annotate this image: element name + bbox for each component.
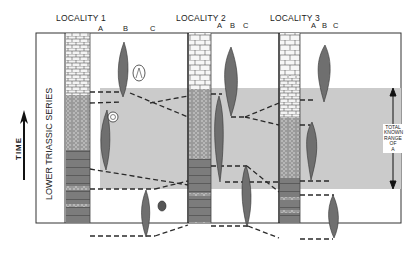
- gastropod-icon: [158, 201, 166, 211]
- range-label: TOTAL KNOWN RANGE OF A: [383, 124, 403, 153]
- brachiopod-icon: [133, 65, 145, 81]
- locality-2-col-a: A: [217, 21, 222, 30]
- locality-1-col-a: A: [98, 24, 103, 33]
- locality-3-col-b: B: [322, 21, 327, 30]
- locality-2-col-b: B: [230, 21, 235, 30]
- range-label-line: A: [384, 147, 402, 152]
- locality-1-col-c: C: [150, 24, 155, 33]
- column-locality-1: [66, 33, 90, 223]
- locality-3-col-c: C: [333, 21, 338, 30]
- locality-1-col-b: B: [123, 24, 128, 33]
- column-locality-2: [188, 33, 211, 223]
- ammonite-icon: [108, 112, 118, 122]
- series-label: LOWER TRIASSIC SERIES: [44, 88, 54, 200]
- range-shading: [100, 88, 401, 189]
- time-label: TIME: [14, 137, 23, 160]
- stratigraphic-correlation-diagram: LOCALITY 1 A B C LOCALITY 2 A B C LOCALI…: [0, 0, 416, 253]
- diagram-graphic: [0, 0, 416, 253]
- locality-2-col-c: C: [243, 21, 248, 30]
- locality-1-label: LOCALITY 1: [56, 13, 106, 23]
- column-locality-3: [279, 33, 300, 223]
- locality-3-col-a: A: [311, 21, 316, 30]
